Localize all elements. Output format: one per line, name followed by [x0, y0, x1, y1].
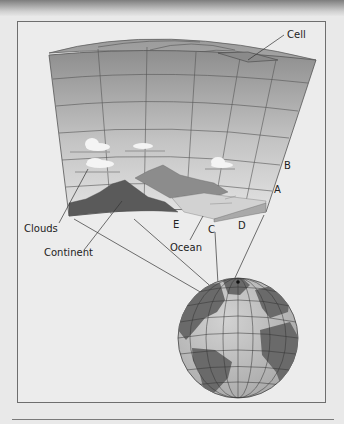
label-d: D: [238, 220, 246, 231]
label-e: E: [173, 219, 179, 230]
label-c: C: [208, 224, 215, 235]
label-ocean: Ocean: [170, 242, 202, 253]
label-clouds: Clouds: [24, 223, 58, 234]
climate-grid-diagram: Cell B A E D C Clouds Ocean Continent: [0, 0, 344, 424]
label-continent: Continent: [44, 247, 93, 258]
label-b: B: [284, 160, 291, 171]
label-cell: Cell: [287, 29, 306, 40]
label-a: A: [274, 184, 281, 195]
earth-globe: [178, 276, 300, 398]
